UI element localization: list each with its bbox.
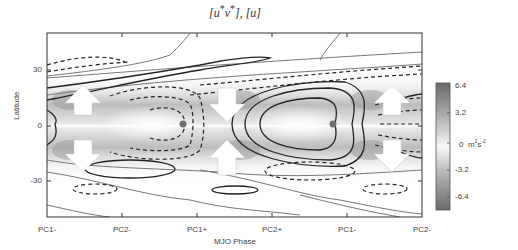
x-tick-label: PC2- xyxy=(102,225,142,234)
y-tick-label: 0 xyxy=(22,121,42,130)
x-tick-label: PC1- xyxy=(27,225,67,234)
colorbar xyxy=(436,83,450,210)
contour-plot xyxy=(0,0,518,250)
y-tick-label: 30 xyxy=(22,65,42,74)
y-axis-label: Latitude xyxy=(12,92,21,120)
marker-dot xyxy=(180,121,187,128)
marker-dot xyxy=(330,121,337,128)
units-sup: -2 xyxy=(481,138,485,144)
colorbar-tick-label: -6.4 xyxy=(455,192,469,201)
x-tick-label: PC2+ xyxy=(252,225,292,234)
colorbar-tick-label: -3.2 xyxy=(455,165,469,174)
colorbar-tick-label: 3.2 xyxy=(455,108,466,117)
colorbar-zero: 0 xyxy=(459,140,463,149)
shading-layer xyxy=(47,33,422,217)
colorbar-tick-label: 6.4 xyxy=(455,81,466,90)
units: m xyxy=(468,140,475,149)
y-tick-label: -30 xyxy=(22,176,42,185)
colorbar-tick-label: 0 m2s-2 xyxy=(459,138,486,149)
x-axis-label: MJO Phase xyxy=(185,237,285,246)
x-tick-label: PC1+ xyxy=(177,225,217,234)
x-tick-label: PC1- xyxy=(327,225,367,234)
x-tick-label: PC2- xyxy=(402,225,442,234)
